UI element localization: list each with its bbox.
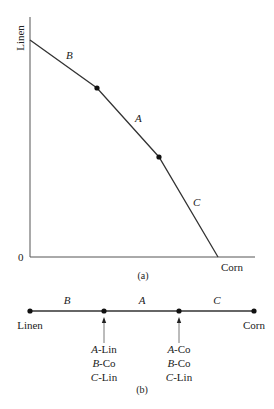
kink-dot-2: [176, 308, 181, 313]
segment-label-a: A: [135, 112, 142, 124]
spec-line: B-Co: [166, 356, 192, 370]
segment-label-a: A: [139, 294, 146, 306]
spec-line: C-Lin: [91, 370, 117, 384]
arrow-up-icon: [102, 317, 106, 343]
spec-line: A-Co: [166, 342, 192, 356]
spec-line: A-Lin: [91, 342, 117, 356]
segment-label-b: B: [64, 294, 71, 306]
segment-label-c: C: [193, 196, 200, 208]
left-end-label: Linen: [17, 319, 43, 331]
spec-line: B-Co: [91, 356, 117, 370]
y-axis-label: Linen: [14, 25, 26, 51]
caption-b: (b): [136, 384, 148, 396]
segment-label-c: C: [213, 294, 220, 306]
kink-1-specialization: A-Lin B-Co C-Lin: [91, 342, 117, 384]
kink-dot-1: [101, 308, 106, 313]
ppf-curve: [30, 40, 218, 257]
diagram-canvas: [0, 0, 274, 409]
arrow-up-icon: [177, 317, 181, 343]
endpoint-linen: [27, 308, 32, 313]
endpoint-corn: [251, 308, 256, 313]
kink-point-2: [156, 154, 161, 159]
kink-2-specialization: A-Co B-Co C-Lin: [166, 342, 192, 384]
caption-a: (a): [137, 270, 148, 282]
spec-line: C-Lin: [166, 370, 192, 384]
right-end-label: Corn: [243, 319, 265, 331]
segment-label-b: B: [66, 49, 73, 61]
kink-point-1: [94, 85, 99, 90]
origin-label: 0: [18, 251, 24, 263]
x-axis-label: Corn: [221, 261, 243, 273]
